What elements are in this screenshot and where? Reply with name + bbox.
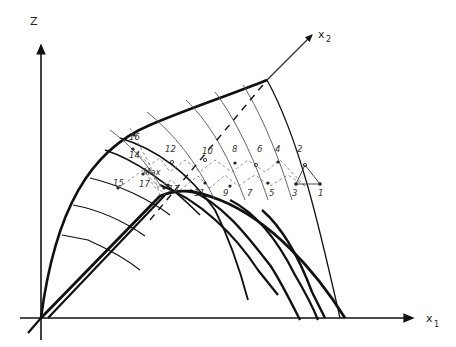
cross-section-curves [62, 138, 248, 300]
point-label-11: 11 [194, 188, 205, 198]
diagram-canvas: Z x 1 x 2 [0, 0, 456, 347]
simplex-surface-diagram: Z x 1 x 2 [0, 0, 456, 347]
ridge-curves [160, 185, 325, 320]
point-label-16: 16 [129, 132, 140, 142]
svg-text:1: 1 [434, 320, 439, 329]
point-label-1: 1 [318, 188, 323, 198]
point-label-15: 15 [113, 178, 124, 188]
point-label-8: 8 [232, 144, 238, 154]
svg-text:x: x [426, 312, 433, 325]
point-label-2: 2 [297, 144, 302, 154]
point-label-9: 9 [223, 188, 228, 198]
point-label-6: 6 [257, 144, 263, 154]
point-label-13: 13 [168, 184, 179, 194]
x1-axis-label: x 1 [426, 312, 439, 329]
point-label-7: 7 [247, 188, 253, 198]
point-label-17: 17 [139, 179, 150, 189]
svg-text:2: 2 [326, 35, 331, 44]
point-label-3: 3 [292, 188, 297, 198]
point-label-4: 4 [275, 144, 280, 154]
point-label-10: 10 [202, 146, 213, 156]
z-axis-label: Z [30, 15, 38, 28]
x2-axis-label: x 2 [318, 28, 331, 44]
point-label-5: 5 [269, 188, 274, 198]
point-label-14: 14 [129, 150, 140, 160]
point-label-12: 12 [165, 144, 176, 154]
max-label: Max [143, 167, 162, 177]
start-simplex [296, 165, 320, 184]
svg-text:x: x [318, 28, 325, 41]
meridian-lines [110, 85, 292, 200]
